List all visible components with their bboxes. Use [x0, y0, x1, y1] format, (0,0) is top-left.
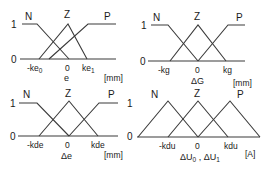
x-tick-neg: -ke0 — [27, 63, 43, 74]
diagram-e: 1 0 N Z P -ke0 0 ke1 e [mm] — [11, 9, 123, 83]
set-P-curve — [198, 101, 260, 137]
set-N-curve — [19, 103, 69, 136]
set-N-curve — [22, 24, 69, 59]
x-axis-label: e — [64, 73, 69, 83]
x-tick-zero: 0 — [195, 65, 200, 75]
x-axis-label: ΔG — [191, 76, 204, 86]
x-tick-pos: kdu — [224, 141, 238, 151]
membership-function-diagrams: 1 0 N Z P -ke0 0 ke1 e [mm] 1 0 N Z P -k… — [0, 0, 269, 170]
x-axis-label: ΔU0 , ΔU1 — [180, 152, 220, 163]
x-tick-zero: 0 — [65, 140, 70, 150]
x-tick-zero: 0 — [195, 141, 200, 151]
diagram-delta-e: 1 0 1 0 N Z P -kde 0 kde Δe [mm] — [10, 88, 133, 161]
set-label-P: P — [104, 11, 111, 22]
set-label-Z: Z — [65, 88, 71, 99]
set-Z-curve — [170, 25, 226, 61]
x-tick-zero: 0 — [65, 63, 70, 73]
unit-label: [mm] — [233, 78, 252, 88]
set-label-N: N — [151, 89, 158, 100]
diagram-delta-u: N Z P -kdu 0 kdu ΔU0 , ΔU1 [A] — [137, 88, 260, 163]
y-tick-0: 0 — [10, 131, 16, 142]
x-tick-pos: kde — [91, 140, 105, 150]
set-Z-curve — [39, 24, 87, 59]
unit-label: [mm] — [104, 73, 123, 83]
y-tick-1: 1 — [11, 19, 17, 30]
set-label-P: P — [108, 89, 115, 100]
set-label-Z: Z — [64, 9, 70, 20]
unit-label: [mm] — [104, 150, 123, 160]
set-label-N: N — [153, 12, 160, 23]
set-label-N: N — [23, 89, 30, 100]
diagram-delta-g: 1 0 N Z P -kg 0 kg ΔG [mm] — [140, 11, 252, 88]
set-Z-curve — [168, 101, 228, 137]
y-tick-1: 1 — [10, 98, 16, 109]
set-label-N: N — [25, 11, 32, 22]
y-tick-1: 1 — [141, 20, 147, 31]
set-Z-curve — [39, 101, 98, 136]
x-tick-neg: -kde — [27, 140, 44, 150]
y-tick-0: 0 — [11, 54, 17, 65]
x-axis-label: Δe — [61, 151, 72, 161]
set-P-curve — [49, 24, 116, 59]
set-label-P: P — [236, 12, 243, 23]
set-label-P: P — [237, 89, 244, 100]
set-label-Z: Z — [194, 11, 200, 22]
x-tick-pos: ke1 — [82, 63, 95, 74]
unit-label: [A] — [245, 149, 255, 159]
set-N-curve — [138, 101, 198, 137]
y-tick-0-right: 0 — [127, 131, 133, 142]
set-label-Z: Z — [194, 88, 200, 99]
y-tick-1-right: 1 — [127, 98, 133, 109]
x-tick-pos: kg — [223, 65, 232, 75]
x-tick-neg: -kdu — [159, 141, 176, 151]
x-tick-neg: -kg — [158, 65, 170, 75]
y-tick-0: 0 — [140, 56, 146, 67]
